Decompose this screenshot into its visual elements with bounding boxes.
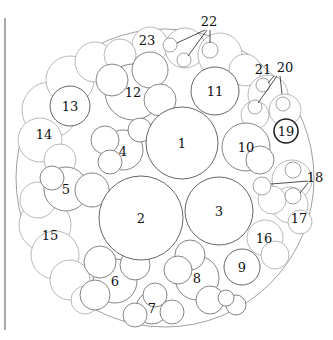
label-7: 7 [148,301,156,316]
label-21: 21 [255,62,272,77]
shrub-12-lobe [96,64,128,96]
plant-20-b [276,97,290,111]
label-15: 15 [42,228,59,243]
label-9: 9 [238,260,246,275]
shrub-12-lobe [132,52,168,88]
label-23: 23 [139,33,156,48]
shrub-8-lobe [164,256,192,284]
label-8: 8 [193,271,201,286]
plant-18-a [285,162,301,178]
shrub-5 [40,166,109,211]
plant-18-b [253,177,271,195]
plant-22-a [163,38,177,52]
shrub-small-se-lobe [218,290,234,306]
label-19: 19 [278,124,295,139]
label-12: 12 [125,85,142,100]
label-11: 11 [207,84,224,99]
label-10: 10 [238,140,255,155]
planting-diagram: 1 2 3 4 5 6 7 8 9 10 11 12 13 14 15 16 1… [0,0,333,340]
label-2: 2 [137,211,145,226]
plant-18-c [285,188,301,204]
label-14: 14 [36,127,53,142]
label-16: 16 [256,231,273,246]
label-1: 1 [178,136,186,151]
shrub-4-lobe [91,126,119,154]
shrub-5-lobe [40,166,64,190]
shrub-7-lobe [123,303,147,327]
label-13: 13 [62,99,79,114]
shrub-6-lobe [80,280,110,310]
label-6: 6 [111,274,119,289]
label-22: 22 [201,14,218,29]
shrub-small-se [218,290,246,315]
label-20: 20 [277,60,294,75]
plant-20-a [248,100,262,114]
label-18: 18 [307,170,324,185]
plant-21 [256,78,270,92]
label-17: 17 [291,211,308,226]
label-5: 5 [62,182,70,197]
label-4: 4 [119,144,127,159]
plant-22-c [202,42,218,58]
label-3: 3 [215,204,223,219]
